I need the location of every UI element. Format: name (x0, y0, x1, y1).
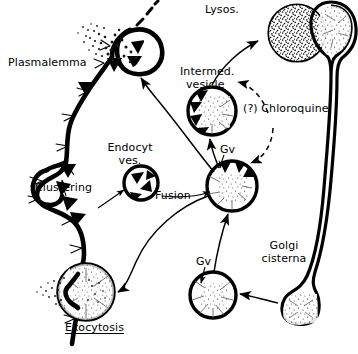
endocytosis-plume (137, 1, 158, 25)
label-clustering: Clustering (35, 182, 92, 194)
label-endocyt-ves-line1: Endocyt (102, 142, 158, 154)
diagram-canvas (0, 0, 358, 354)
intermediate-vesicle (188, 87, 236, 137)
label-intermediate-vesicle-line2: vesicle (186, 79, 225, 91)
arrow-gv-to-exocytosis (118, 196, 208, 292)
golgi-vesicle-lower (190, 272, 236, 318)
chloroquine-arrows (238, 82, 273, 163)
arrow-cisterna-to-lower-gv (240, 294, 278, 303)
label-intermediate-vesicle-line1: Intermed. (180, 66, 235, 78)
label-golgi-cisterna-line1: Golgi (258, 240, 310, 252)
label-lysosome: Lysos. (205, 4, 239, 16)
label-exocytosis: Exocytosis (65, 322, 124, 334)
arrow-gv-to-intermediate (210, 139, 219, 168)
label-chloroquine: (?) Chloroquine (243, 103, 329, 115)
endocytosis-exocytosis-diagram: Plasmalemma Clustering Endocyt ves. Fusi… (0, 0, 358, 354)
endocytotic-vesicle (124, 166, 158, 202)
leader-endocyt-ves (98, 190, 124, 208)
label-gv-upper: Gv (220, 144, 235, 156)
golgi-vesicle-upper (207, 159, 257, 211)
arrow-chloroquine-to-gv (251, 128, 273, 163)
label-golgi-cisterna-line2: cisterna (254, 253, 314, 265)
label-endocyt-ves-line2: ves. (102, 155, 158, 167)
endocytotic-pit (112, 29, 162, 74)
exocytotic-vesicle (58, 264, 114, 320)
label-plasmalemma: Plasmalemma (8, 57, 87, 69)
arrow-lower-gv-to-upper-gv (214, 214, 228, 272)
label-gv-lower: Gv (196, 256, 211, 268)
label-fusion: Fusion (155, 190, 191, 202)
